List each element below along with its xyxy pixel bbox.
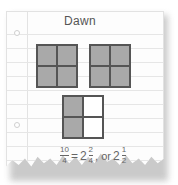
connector-text: , or <box>95 150 111 162</box>
fraction-square-2 <box>89 44 131 88</box>
rule-line <box>7 62 163 63</box>
denominator: 4 <box>62 157 66 165</box>
shaded-cell <box>63 117 83 138</box>
margin-line <box>27 12 28 172</box>
punch-hole-icon <box>14 30 20 36</box>
shaded-cell <box>57 45 77 66</box>
fraction-square-3 <box>62 95 104 139</box>
denominator: 4 <box>89 157 93 165</box>
rule-line <box>7 34 163 35</box>
numerator: 2 <box>89 146 93 154</box>
whole-number: 2 <box>80 149 87 163</box>
fraction-square-1 <box>36 44 78 88</box>
fraction-two-fourths: 2 4 <box>89 146 93 165</box>
shaded-cell <box>110 45 130 66</box>
equation: 10 4 = 2 2 4 , or 2 1 2 <box>60 146 126 165</box>
unshaded-cell <box>83 117 103 138</box>
fraction-one-half: 1 2 <box>122 146 126 165</box>
shaded-cell <box>63 96 83 117</box>
rule-line <box>7 90 163 91</box>
punch-hole-icon <box>14 122 20 128</box>
numerator: 10 <box>60 146 69 154</box>
equals-sign: = <box>71 149 78 163</box>
student-name: Dawn <box>64 14 96 28</box>
rule-line <box>7 76 163 77</box>
shaded-cell <box>37 66 57 87</box>
fraction-ten-fourths: 10 4 <box>60 146 69 165</box>
shaded-cell <box>37 45 57 66</box>
shaded-cell <box>57 66 77 87</box>
shaded-cell <box>110 66 130 87</box>
whole-number: 2 <box>113 149 120 163</box>
numerator: 1 <box>122 146 126 154</box>
shaded-cell <box>90 66 110 87</box>
unshaded-cell <box>83 96 103 117</box>
rule-line <box>7 48 163 49</box>
denominator: 2 <box>122 157 126 165</box>
shaded-cell <box>90 45 110 66</box>
